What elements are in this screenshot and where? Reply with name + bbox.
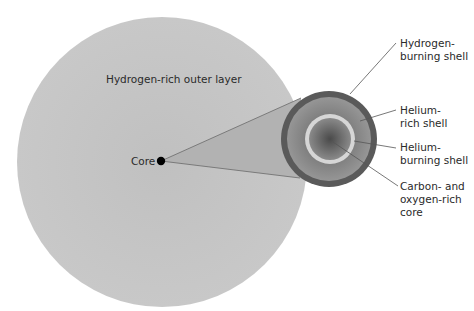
leader-hydrogen-burning bbox=[350, 43, 396, 94]
callout-line: Hydrogen- bbox=[400, 37, 468, 50]
callout-line: rich shell bbox=[400, 117, 447, 130]
callout-line: core bbox=[400, 206, 465, 219]
callout-carbon-oxygen-core: Carbon- and oxygen-rich core bbox=[400, 180, 465, 219]
callout-line: Helium- bbox=[400, 104, 447, 117]
callout-line: burning shell bbox=[400, 50, 468, 63]
red-giant-structure-diagram: Hydrogen-rich outer layer Core Hydrogen-… bbox=[0, 0, 474, 311]
callout-line: oxygen-rich bbox=[400, 193, 465, 206]
callout-helium-burning-shell: Helium- burning shell bbox=[400, 141, 468, 167]
core-label: Core bbox=[131, 155, 155, 168]
callout-helium-rich-shell: Helium- rich shell bbox=[400, 104, 447, 130]
core-dot bbox=[157, 157, 165, 165]
callout-hydrogen-burning-shell: Hydrogen- burning shell bbox=[400, 37, 468, 63]
callout-line: burning shell bbox=[400, 154, 468, 167]
callout-line: Helium- bbox=[400, 141, 468, 154]
carbon-oxygen-core bbox=[309, 118, 351, 160]
callout-line: Carbon- and bbox=[400, 180, 465, 193]
outer-layer-label: Hydrogen-rich outer layer bbox=[106, 73, 242, 86]
